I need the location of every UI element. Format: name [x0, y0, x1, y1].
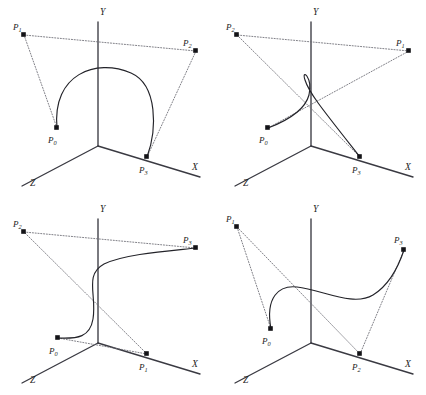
panel-bottom-left: Y X Z P0 P1 P2 P3: [0, 197, 213, 394]
z-axis-label: Z: [30, 178, 36, 188]
point-labels: P0 P1 P2 P3: [12, 219, 192, 373]
label-p0: P0: [261, 336, 272, 347]
guide-p0-p1: [58, 338, 147, 354]
label-p0: P0: [258, 135, 269, 146]
label-p3: P3: [138, 165, 148, 176]
label-p2: P2: [182, 38, 193, 49]
axis-triad: [22, 219, 200, 383]
bezier-curve: [58, 248, 196, 338]
x-axis-label: X: [191, 162, 199, 172]
label-p0: P0: [48, 346, 59, 357]
label-p1: P1: [395, 38, 405, 49]
bezier-curve: [270, 250, 404, 329]
x-axis-label: X: [404, 162, 412, 172]
x-axis: [311, 343, 413, 374]
guide-p1-p2: [237, 227, 360, 354]
guide-p2-p3: [147, 51, 196, 157]
label-p2: P2: [12, 219, 23, 230]
x-axis: [311, 146, 413, 177]
label-p1: P1: [138, 362, 148, 373]
y-axis-label: Y: [313, 7, 320, 17]
point-labels: P0 P1 P2 P3: [12, 22, 193, 176]
z-axis-label: Z: [243, 375, 249, 385]
y-axis-label: Y: [100, 204, 107, 214]
y-axis-label: Y: [100, 7, 107, 17]
guide-p1-p2: [237, 35, 409, 51]
marker-p3[interactable]: [401, 247, 406, 252]
label-p3: P3: [393, 235, 403, 246]
bezier-curve: [268, 75, 360, 157]
panel-bottom-right: Y X Z P0 P1 P2 P3: [213, 197, 426, 394]
panel-top-left: Y X Z P0 P1 P2 P3: [0, 0, 213, 197]
label-p0: P0: [47, 135, 58, 146]
guide-p2-p3: [237, 35, 360, 157]
x-axis-label: X: [191, 359, 199, 369]
label-p2: P2: [351, 362, 362, 373]
guide-p2-p3: [24, 232, 196, 248]
marker-p0[interactable]: [55, 335, 60, 340]
marker-p1[interactable]: [406, 48, 411, 53]
guide-p0-p1: [237, 227, 271, 329]
marker-p0[interactable]: [265, 125, 270, 130]
marker-p3[interactable]: [144, 154, 149, 159]
marker-p2[interactable]: [357, 351, 362, 356]
z-axis-label: Z: [30, 375, 36, 385]
guide-p0-p1: [24, 35, 57, 128]
guide-p1-p2: [24, 232, 147, 354]
z-axis-label: Z: [243, 178, 249, 188]
figure-container: Y X Z P0 P1 P2 P3: [0, 0, 426, 395]
marker-p1[interactable]: [21, 32, 26, 37]
axis-triad: [235, 22, 413, 186]
guide-p0-p1: [268, 51, 409, 128]
label-p3: P3: [182, 235, 192, 246]
marker-p3[interactable]: [193, 245, 198, 250]
bezier-curve: [57, 68, 154, 157]
label-p3: P3: [351, 165, 361, 176]
y-axis-label: Y: [313, 204, 320, 214]
label-p1: P1: [12, 22, 22, 33]
marker-p2[interactable]: [234, 32, 239, 37]
marker-p0[interactable]: [268, 326, 273, 331]
marker-p0[interactable]: [54, 125, 59, 130]
marker-p2[interactable]: [193, 48, 198, 53]
x-axis-label: X: [404, 359, 412, 369]
marker-p1[interactable]: [234, 224, 239, 229]
marker-p1[interactable]: [144, 351, 149, 356]
marker-p2[interactable]: [21, 229, 26, 234]
label-p1: P1: [225, 214, 235, 225]
axis-labels: Y X Z: [243, 7, 412, 188]
control-point-markers: [21, 229, 198, 356]
axis-labels: Y X Z: [30, 204, 199, 385]
label-p2: P2: [225, 22, 236, 33]
axis-labels: Y X Z: [30, 7, 199, 188]
panel-top-right: Y X Z P0 P1 P2 P3: [213, 0, 426, 197]
marker-p3[interactable]: [357, 154, 362, 159]
guide-p1-p2: [24, 35, 196, 51]
